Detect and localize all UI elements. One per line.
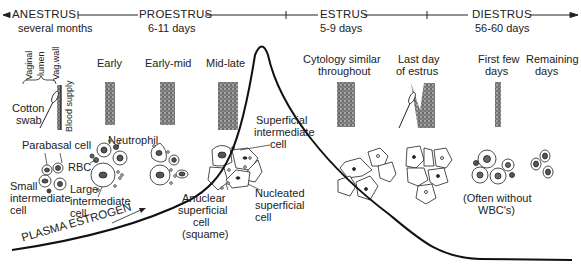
estrous-cycle-diagram: ANESTRUS several months PROESTRUS 6-11 d… [0, 0, 581, 264]
label-lumen: lumen [36, 51, 46, 76]
label-neutrophil: Neutrophil [108, 134, 158, 146]
arrow-icon [139, 208, 146, 213]
label-nucleated-1: Nucleated [255, 187, 305, 199]
wall-section-last-day [411, 83, 435, 128]
cells-diestrus-early [472, 150, 515, 184]
label-nucleated-3: cell [255, 211, 272, 223]
label-small-int-2: intermediate [10, 192, 71, 204]
phase-diestrus: DIESTRUS [472, 8, 532, 20]
label-cotton: Cotton [12, 102, 44, 114]
stage-estrus-l2: throughout [318, 65, 371, 77]
arrow-left-icon [3, 13, 10, 18]
arrow-right-icon [570, 13, 578, 18]
label-diestrus-note-2: WBC's) [478, 204, 515, 216]
label-sup-int-1: Superficial [256, 114, 307, 126]
phase-anestrus-duration: several months [18, 22, 93, 34]
label-nucleated-2: superficial [255, 199, 305, 211]
label-diestrus-note-1: (Often without [463, 192, 531, 204]
phase-estrus-duration: 5-9 days [320, 22, 362, 34]
cells-early-mid [150, 143, 188, 185]
wall-section-early-mid [160, 82, 175, 125]
cells-last-day [406, 146, 452, 204]
stage-remaining-l1: Remaining [526, 53, 579, 65]
wall-section-estrus [337, 82, 355, 127]
cells-mid-late [208, 145, 262, 190]
stage-remaining-l2: days [535, 65, 558, 77]
label-sup-int-2: intermediate [254, 126, 315, 138]
label-small-int-1: Small [10, 180, 38, 192]
stage-last-day-l2: of estrus [396, 65, 438, 77]
label-parabasal-cell: Parabasal cell [22, 139, 91, 151]
label-vaginal: Vaginal [24, 51, 34, 80]
stage-mid-late: Mid-late [206, 57, 245, 69]
cells-diestrus-late [531, 150, 553, 178]
label-small-int-3: cell [10, 204, 27, 216]
stage-estrus-l1: Cytology similar [303, 53, 381, 65]
phase-proestrus: PROESTRUS [139, 8, 212, 20]
stage-early-mid: Early-mid [145, 57, 191, 69]
wall-section-diestrus [495, 82, 501, 127]
phase-estrus: ESTRUS [320, 8, 368, 20]
wall-section-early [105, 82, 115, 125]
label-sup-int-3: cell [270, 138, 287, 150]
label-anuclear-4: (squame) [182, 228, 228, 240]
cells-estrus [338, 148, 396, 200]
label-large-int-1: Large [70, 183, 98, 195]
stage-first-few-l1: First few [478, 53, 520, 65]
stage-last-day-l1: Last day [398, 53, 440, 65]
wall-section-mid-late [218, 82, 238, 130]
label-rbc: RBC [68, 161, 91, 173]
phase-diestrus-duration: 56-60 days [475, 22, 529, 34]
label-anuclear-3: cell [193, 216, 210, 228]
label-anuclear-1: Anuclear [182, 192, 225, 204]
label-anuclear-2: superficial [178, 204, 228, 216]
phase-proestrus-duration: 6-11 days [148, 22, 196, 34]
label-blood-supply: Blood supply [64, 80, 74, 132]
stage-early: Early [97, 57, 122, 69]
label-swab: swab [16, 114, 42, 126]
phase-anestrus: ANESTRUS [12, 8, 76, 20]
cells-anestrus [39, 163, 66, 193]
stage-first-few-l2: days [485, 65, 508, 77]
label-vag-wall: Vag.wall [51, 47, 61, 80]
